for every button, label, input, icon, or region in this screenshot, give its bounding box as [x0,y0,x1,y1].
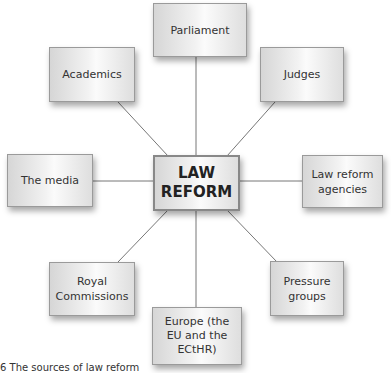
node-label-line3: ECtHR) [177,343,216,357]
node-label-line2: agencies [318,182,367,197]
figure-caption: 6 The sources of law reform [0,362,139,373]
node-label-line2: EU and the [167,329,228,343]
node-parliament: Parliament [153,3,247,57]
node-pressure-groups: Pressure groups [270,261,344,316]
connector-pressure [227,210,277,262]
node-label: Parliament [170,23,229,38]
node-label: Judges [284,67,321,82]
node-label-line1: Royal [77,274,107,289]
node-label-line1: Pressure [284,274,331,289]
connector-royal [118,210,168,262]
node-academics: Academics [49,47,135,102]
node-europe: Europe (the EU and the ECtHR) [152,307,242,365]
connector-academics [118,102,168,156]
node-label: The media [21,173,79,188]
node-label-line1: Europe (the [165,315,230,329]
node-the-media: The media [7,154,93,207]
node-law-reform-agencies: Law reform agencies [302,155,383,208]
node-label-line2: Commissions [56,289,129,304]
center-label-line1: LAW [178,164,215,183]
connector-judges [227,102,275,156]
node-law-reform-center: LAW REFORM [153,155,240,211]
node-judges: Judges [260,47,344,102]
node-royal-commissions: Royal Commissions [49,262,135,316]
node-label-line1: Law reform [311,167,373,182]
center-label-line2: REFORM [161,183,232,202]
node-label-line2: groups [288,289,326,304]
node-label: Academics [62,67,121,82]
